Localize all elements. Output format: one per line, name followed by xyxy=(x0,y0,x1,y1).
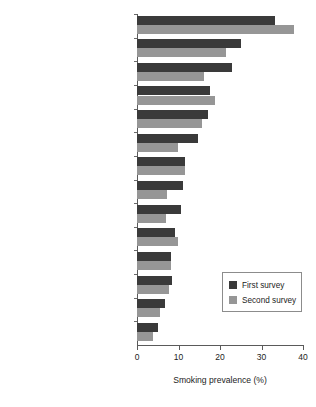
bar-group-row: Barbados (1999, 2002) xyxy=(137,203,303,227)
bar-first-survey xyxy=(137,134,198,143)
x-axis-tick-label: 10 xyxy=(164,352,194,362)
category-tick xyxy=(134,298,137,299)
x-axis-tick xyxy=(220,345,221,350)
category-tick xyxy=(134,180,137,181)
category-tick xyxy=(134,203,137,204)
x-axis-tick xyxy=(179,345,180,350)
bar-group-row: Costa Rica (1999, 2002) xyxy=(137,109,303,133)
bar-first-survey xyxy=(137,181,183,190)
bar-second-survey xyxy=(137,214,166,223)
legend-swatch-first-survey-icon xyxy=(229,281,237,289)
category-tick xyxy=(134,109,137,110)
bar-group-row: Cuba (2001, 2004) xyxy=(137,132,303,156)
bar-first-survey xyxy=(137,252,171,261)
bar-group-row: Guyana (2000, 2004) xyxy=(137,250,303,274)
category-tick xyxy=(134,85,137,86)
bar-first-survey xyxy=(137,16,275,25)
x-axis-tick xyxy=(137,345,138,350)
x-axis-tick xyxy=(262,345,263,350)
bar-group-row: Antigua and Barbuda (2000, 2004) xyxy=(137,321,303,345)
category-tick xyxy=(134,250,137,251)
x-axis-tick-label: 20 xyxy=(205,352,235,362)
x-axis-title: Smoking prevalence (%) xyxy=(137,375,303,385)
bar-second-survey xyxy=(137,48,226,57)
bar-group-row: Grenada (2000, 2004) xyxy=(137,227,303,251)
bar-group-row: Argentina (2000, 2003) xyxy=(137,38,303,62)
category-tick xyxy=(134,156,137,157)
category-tick xyxy=(134,14,137,15)
bar-first-survey xyxy=(137,63,232,72)
category-tick xyxy=(134,132,137,133)
bar-second-survey xyxy=(137,285,169,294)
bar-first-survey xyxy=(137,86,210,95)
bar-second-survey xyxy=(137,143,178,152)
bar-second-survey xyxy=(137,119,202,128)
bar-first-survey xyxy=(137,39,241,48)
bar-second-survey xyxy=(137,166,185,175)
category-tick xyxy=(134,227,137,228)
x-axis-tick-label: 0 xyxy=(122,352,152,362)
bar-second-survey xyxy=(137,190,167,199)
bar-group-row: Suriname (2000, 2004) xyxy=(137,180,303,204)
legend-label-second-survey: Second survey xyxy=(242,296,296,305)
bar-group-row: Peru (2000, 2004) xyxy=(137,85,303,109)
bar-second-survey xyxy=(137,261,171,270)
legend-swatch-second-survey-icon xyxy=(229,296,237,304)
x-axis-tick xyxy=(303,345,304,350)
legend-item-second-survey: Second survey xyxy=(229,293,301,307)
bar-second-survey xyxy=(137,96,215,105)
bar-first-survey xyxy=(137,228,175,237)
bar-first-survey xyxy=(137,157,185,166)
bar-second-survey xyxy=(137,72,204,81)
bar-second-survey xyxy=(137,237,178,246)
chart-legend: First survey Second survey xyxy=(222,272,302,312)
bar-group-row: Chile (2000, 2003) xyxy=(137,14,303,38)
bar-first-survey xyxy=(137,323,158,332)
bar-group-row: Bolivia (2000, 2003) xyxy=(137,61,303,85)
bar-first-survey xyxy=(137,205,181,214)
x-axis-tick-label: 40 xyxy=(288,352,316,362)
bar-first-survey xyxy=(137,299,165,308)
legend-item-first-survey: First survey xyxy=(229,278,301,292)
smoking-prevalence-bar-chart: Chile (2000, 2003)Argentina (2000, 2003)… xyxy=(0,0,316,407)
category-tick xyxy=(134,38,137,39)
bar-second-survey xyxy=(137,25,294,34)
legend-label-first-survey: First survey xyxy=(242,281,284,290)
category-tick xyxy=(134,274,137,275)
bar-second-survey xyxy=(137,332,153,341)
bar-first-survey xyxy=(137,276,172,285)
bar-group-row: Dominica (2000, 2004) xyxy=(137,156,303,180)
category-tick xyxy=(134,321,137,322)
x-axis-tick-label: 30 xyxy=(247,352,277,362)
bar-first-survey xyxy=(137,110,208,119)
category-tick xyxy=(134,61,137,62)
bar-second-survey xyxy=(137,308,160,317)
